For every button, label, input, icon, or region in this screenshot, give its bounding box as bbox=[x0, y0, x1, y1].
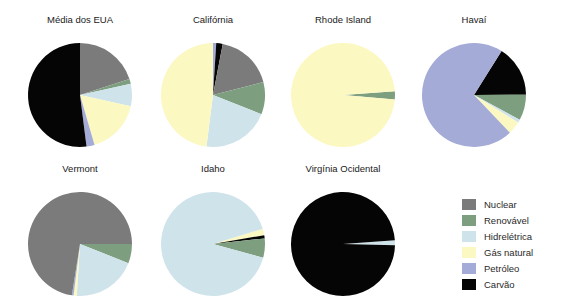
legend-label: Petróleo bbox=[484, 263, 519, 274]
pie-graphic bbox=[15, 179, 145, 306]
legend-label: Carvão bbox=[484, 279, 515, 290]
legend-swatch-renovavel bbox=[462, 215, 476, 226]
pie-graphic bbox=[148, 30, 278, 160]
pie-title: Idaho bbox=[148, 163, 278, 174]
pie-title: Califórnia bbox=[148, 14, 278, 25]
legend-swatch-petroleo bbox=[462, 263, 476, 274]
legend: Nuclear Renovável Hidrelétrica Gás natur… bbox=[462, 196, 533, 292]
pie-title: Virgínia Ocidental bbox=[278, 163, 408, 174]
pie-title: Rhode Island bbox=[278, 14, 408, 25]
pie-title: Vermont bbox=[15, 163, 145, 174]
legend-item-carvao: Carvão bbox=[462, 276, 533, 292]
legend-label: Nuclear bbox=[484, 199, 517, 210]
legend-item-renovavel: Renovável bbox=[462, 212, 533, 228]
legend-swatch-carvao bbox=[462, 279, 476, 290]
legend-label: Renovável bbox=[484, 215, 529, 226]
pie-graphic bbox=[278, 30, 408, 160]
legend-item-nuclear: Nuclear bbox=[462, 196, 533, 212]
legend-label: Gás natural bbox=[484, 247, 533, 258]
pie-slice-gas-natural bbox=[161, 43, 213, 147]
legend-swatch-hidreletrica bbox=[462, 231, 476, 242]
legend-item-petroleo: Petróleo bbox=[462, 260, 533, 276]
pie-title: Média dos EUA bbox=[15, 14, 145, 25]
legend-item-gas-natural: Gás natural bbox=[462, 244, 533, 260]
pie-graphic bbox=[15, 30, 145, 160]
legend-item-hidreletrica: Hidrelétrica bbox=[462, 228, 533, 244]
legend-label: Hidrelétrica bbox=[484, 231, 532, 242]
pie-graphic bbox=[409, 30, 539, 160]
legend-swatch-nuclear bbox=[462, 199, 476, 210]
pie-slice-carvao bbox=[28, 43, 87, 147]
pie-graphic bbox=[148, 179, 278, 306]
legend-swatch-gas-natural bbox=[462, 247, 476, 258]
pie-title: Havaí bbox=[409, 14, 539, 25]
pie-graphic bbox=[278, 179, 408, 306]
